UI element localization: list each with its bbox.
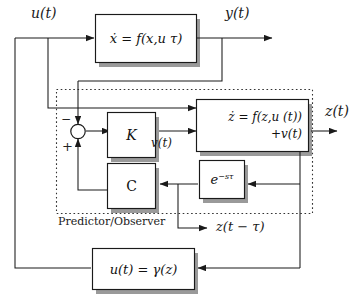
signal-label-v: v(t): [151, 137, 172, 149]
sum-minus-sign: −: [61, 112, 71, 126]
signal-label-u: u(t): [31, 6, 57, 20]
diagram-canvas: [0, 0, 359, 308]
gain-k-box-outline: [108, 113, 156, 158]
predictor-observer-group-label: Predictor/Observer: [58, 216, 165, 227]
summing-junction: [71, 124, 85, 138]
sum-plus-sign: +: [62, 139, 73, 154]
signal-label-z-delayed: z(t − τ): [216, 220, 265, 233]
control-box-outline: [93, 249, 195, 290]
signal-label-z: z(t): [325, 104, 349, 118]
gain-c-box-outline: [108, 164, 156, 209]
delay-box-outline: [200, 161, 245, 199]
box-outlines: [93, 15, 309, 290]
predictor-box-outline: [197, 100, 309, 152]
wire-control-out-to-u-bus: [15, 38, 91, 268]
wire-C-to-sum-plus: [78, 139, 111, 190]
signal-label-y: y(t): [225, 6, 249, 20]
block-diagram: ẋ = f(x,u τ) ż = f(z,u (t)) +v(t) K C e−…: [0, 0, 359, 308]
plant-box-outline: [96, 15, 197, 63]
